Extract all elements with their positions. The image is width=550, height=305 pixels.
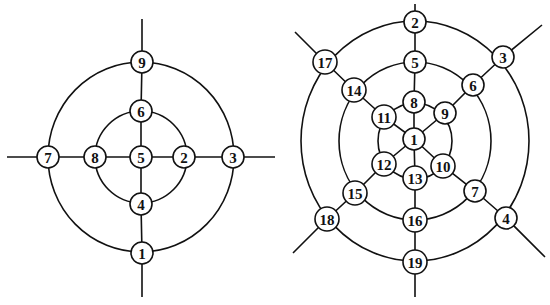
- node-12: 12: [372, 152, 396, 176]
- node-3: 3: [492, 46, 514, 68]
- node-label: 9: [441, 106, 449, 122]
- node-label: 7: [471, 184, 479, 200]
- node-17: 17: [313, 50, 337, 74]
- node-label: 16: [408, 213, 424, 229]
- node-1: 1: [403, 128, 425, 150]
- node-label: 13: [408, 171, 423, 187]
- node-4: 4: [130, 193, 152, 215]
- node-3: 3: [222, 146, 244, 168]
- node-5: 5: [130, 146, 152, 168]
- node-label: 3: [499, 50, 507, 66]
- node-label: 8: [91, 150, 99, 166]
- node-label: 11: [377, 110, 391, 126]
- node-label: 2: [411, 15, 419, 31]
- node-label: 5: [411, 55, 419, 71]
- node-label: 9: [138, 55, 146, 71]
- node-label: 2: [180, 150, 188, 166]
- node-15: 15: [343, 181, 367, 205]
- node-9: 9: [131, 51, 153, 73]
- node-label: 8: [410, 95, 418, 111]
- right-ring-graph: 12345678910111213141516171819: [293, 4, 545, 297]
- node-label: 1: [138, 246, 146, 262]
- node-label: 12: [377, 157, 392, 173]
- node-14: 14: [342, 78, 366, 102]
- node-label: 6: [469, 78, 477, 94]
- node-label: 14: [347, 83, 363, 99]
- node-8: 8: [84, 146, 106, 168]
- node-13: 13: [403, 166, 427, 190]
- node-label: 6: [137, 104, 145, 120]
- diagram-canvas: 123456789 12345678910111213141516171819: [0, 0, 550, 305]
- node-label: 3: [229, 150, 237, 166]
- left-ring-graph: 123456789: [7, 19, 275, 297]
- node-10: 10: [431, 154, 455, 178]
- node-label: 10: [436, 159, 451, 175]
- node-label: 19: [408, 255, 423, 271]
- node-label: 7: [44, 150, 52, 166]
- node-18: 18: [315, 207, 339, 231]
- node-7: 7: [464, 180, 486, 202]
- spoke-north: [141, 19, 142, 157]
- node-2: 2: [173, 146, 195, 168]
- node-label: 4: [137, 197, 145, 213]
- node-label: 5: [137, 150, 145, 166]
- node-1: 1: [131, 242, 153, 264]
- node-19: 19: [403, 250, 427, 274]
- node-label: 1: [410, 132, 418, 148]
- node-label: 18: [320, 212, 335, 228]
- node-4: 4: [495, 207, 517, 229]
- node-8: 8: [403, 91, 425, 113]
- node-5: 5: [404, 51, 426, 73]
- node-2: 2: [404, 11, 426, 33]
- node-11: 11: [372, 105, 396, 129]
- node-label: 4: [502, 211, 510, 227]
- node-9: 9: [434, 102, 456, 124]
- node-label: 15: [348, 186, 363, 202]
- node-6: 6: [130, 100, 152, 122]
- spoke-south: [141, 157, 142, 297]
- node-label: 17: [318, 55, 334, 71]
- node-16: 16: [403, 208, 427, 232]
- node-6: 6: [462, 74, 484, 96]
- node-7: 7: [37, 146, 59, 168]
